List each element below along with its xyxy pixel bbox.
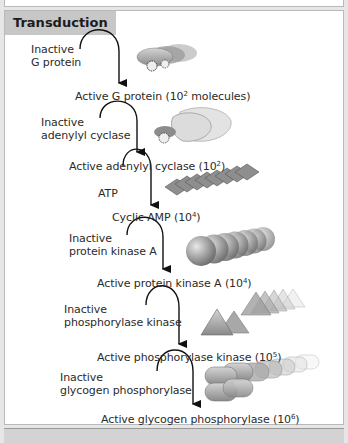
- inactive-protein-kinase-a-label: Inactiveprotein kinase A: [69, 232, 157, 258]
- cyclic-amp-label: Cyclic AMP (104): [112, 211, 201, 224]
- inactive-phosphorylase-kinase-label: Inactivephosphorylase kinase: [64, 303, 182, 329]
- top-panel-edge: [4, 0, 344, 7]
- active-adenylyl-cyclase-label: Active adenylyl cyclase (102): [69, 160, 225, 173]
- inactive-adenylyl-cyclase-label: Inactiveadenylyl cyclase: [41, 116, 130, 142]
- g-protein-shape: [137, 44, 197, 71]
- active-protein-kinase-a-label: Active protein kinase A (104): [97, 277, 251, 290]
- active-g-protein-label: Active G protein (102 molecules): [75, 90, 250, 103]
- atp-label: ATP: [98, 187, 118, 200]
- active-phosphorylase-kinase-label: Active phosphorylase kinase (105): [97, 351, 281, 364]
- transduction-panel: Transduction: [4, 10, 344, 425]
- adenylyl-cyclase-shape: [154, 108, 231, 143]
- phosphorylase-kinase-shape: [201, 289, 305, 335]
- inactive-g-protein-label: InactiveG protein: [31, 43, 81, 69]
- active-glycogen-phosphorylase-label: Active glycogen phosphorylase (106): [101, 413, 300, 426]
- bottom-panel-edge: [4, 428, 344, 443]
- inactive-glycogen-phosphorylase-label: Inactiveglycogen phosphorylase: [60, 371, 192, 397]
- protein-kinase-a-shape: [186, 227, 275, 266]
